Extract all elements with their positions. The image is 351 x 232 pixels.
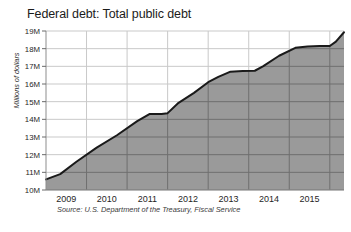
svg-text:19M: 19M bbox=[25, 27, 40, 36]
svg-text:2013: 2013 bbox=[218, 194, 238, 204]
y-axis-ticks: 10M11M12M13M14M15M16M17M18M19M bbox=[25, 27, 46, 195]
svg-text:2014: 2014 bbox=[259, 194, 279, 204]
svg-text:14M: 14M bbox=[25, 115, 40, 124]
svg-text:17M: 17M bbox=[25, 62, 40, 71]
svg-text:12M: 12M bbox=[25, 151, 40, 160]
x-axis-ticks: 2009201020112012201320142015 bbox=[56, 194, 319, 204]
svg-text:18M: 18M bbox=[25, 45, 40, 54]
svg-text:13M: 13M bbox=[25, 133, 40, 142]
svg-text:2012: 2012 bbox=[178, 194, 198, 204]
svg-text:16M: 16M bbox=[25, 80, 40, 89]
chart-plot-area: 10M11M12M13M14M15M16M17M18M19M 200920102… bbox=[0, 0, 351, 232]
svg-text:10M: 10M bbox=[25, 186, 40, 195]
svg-text:11M: 11M bbox=[25, 168, 40, 177]
svg-text:15M: 15M bbox=[25, 98, 40, 107]
svg-text:2010: 2010 bbox=[97, 194, 117, 204]
svg-text:2009: 2009 bbox=[56, 194, 76, 204]
svg-text:2011: 2011 bbox=[138, 194, 157, 204]
chart-figure: Federal debt: Total public debt Millions… bbox=[0, 0, 351, 232]
svg-text:2015: 2015 bbox=[300, 194, 320, 204]
source-note: Source: U.S. Department of the Treasury,… bbox=[57, 205, 240, 214]
